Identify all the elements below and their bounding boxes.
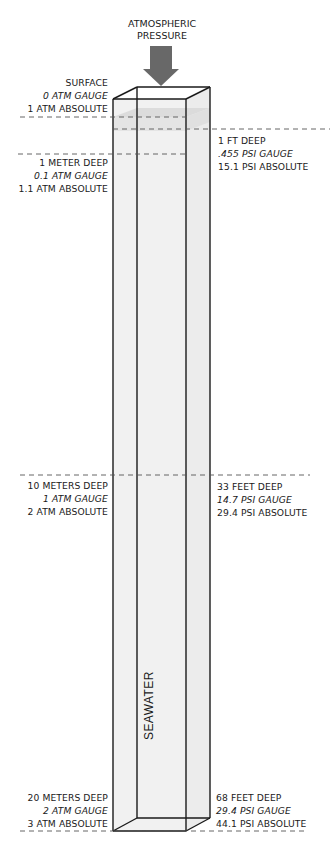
- one-foot-label: 1 FT DEEP .455 PSI GAUGE 15.1 PSI ABSOLU…: [218, 134, 308, 173]
- thirty-three-feet-absolute: 29.4 PSI ABSOLUTE: [217, 506, 307, 519]
- surface-label: SURFACE 0 ATM GAUGE 1 ATM ABSOLUTE: [28, 76, 109, 115]
- surface-gauge: 0 ATM GAUGE: [28, 89, 109, 102]
- ten-meter-gauge: 1 ATM GAUGE: [27, 492, 108, 505]
- title-line-1: ATMOSPHERIC: [110, 18, 214, 30]
- surface-depth: SURFACE: [28, 76, 109, 89]
- title-line-2: PRESSURE: [110, 30, 214, 42]
- one-meter-gauge: 0.1 ATM GAUGE: [19, 169, 108, 182]
- pressure-diagram: [0, 0, 330, 864]
- one-foot-depth: 1 FT DEEP: [218, 134, 308, 147]
- surface-absolute: 1 ATM ABSOLUTE: [28, 102, 109, 115]
- thirty-three-feet-label: 33 FEET DEEP 14.7 PSI GAUGE 29.4 PSI ABS…: [217, 480, 307, 519]
- twenty-meter-label: 20 METERS DEEP 2 ATM GAUGE 3 ATM ABSOLUT…: [27, 791, 108, 830]
- ten-meter-label: 10 METERS DEEP 1 ATM GAUGE 2 ATM ABSOLUT…: [27, 479, 108, 518]
- sixty-eight-feet-absolute: 44.1 PSI ABSOLUTE: [216, 817, 306, 830]
- ten-meter-depth: 10 METERS DEEP: [27, 479, 108, 492]
- seawater-label: SEAWATER: [142, 671, 156, 740]
- twenty-meter-depth: 20 METERS DEEP: [27, 791, 108, 804]
- sixty-eight-feet-depth: 68 FEET DEEP: [216, 791, 306, 804]
- one-foot-absolute: 15.1 PSI ABSOLUTE: [218, 160, 308, 173]
- one-foot-gauge: .455 PSI GAUGE: [218, 147, 308, 160]
- sixty-eight-feet-label: 68 FEET DEEP 29.4 PSI GAUGE 44.1 PSI ABS…: [216, 791, 306, 830]
- sixty-eight-feet-gauge: 29.4 PSI GAUGE: [216, 804, 306, 817]
- one-meter-depth: 1 METER DEEP: [19, 156, 108, 169]
- down-arrow-icon: [143, 46, 179, 86]
- atmospheric-pressure-title: ATMOSPHERIC PRESSURE: [110, 18, 214, 42]
- thirty-three-feet-depth: 33 FEET DEEP: [217, 480, 307, 493]
- one-meter-absolute: 1.1 ATM ABSOLUTE: [19, 182, 108, 195]
- water-column: [113, 87, 210, 831]
- one-meter-label: 1 METER DEEP 0.1 ATM GAUGE 1.1 ATM ABSOL…: [19, 156, 108, 195]
- thirty-three-feet-gauge: 14.7 PSI GAUGE: [217, 493, 307, 506]
- twenty-meter-gauge: 2 ATM GAUGE: [27, 804, 108, 817]
- ten-meter-absolute: 2 ATM ABSOLUTE: [27, 505, 108, 518]
- twenty-meter-absolute: 3 ATM ABSOLUTE: [27, 817, 108, 830]
